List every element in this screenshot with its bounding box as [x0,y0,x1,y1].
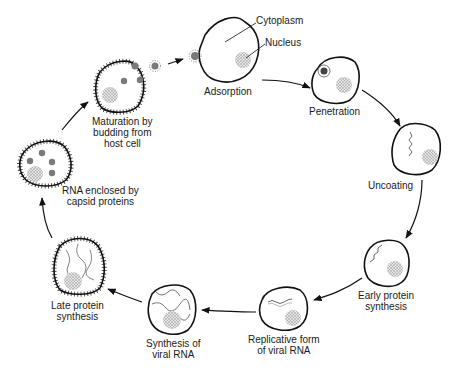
cell-late-protein [54,239,104,295]
cell-penetration [312,57,359,103]
label-replicative-form: Replicative form of viral RNA [248,334,320,356]
cell-adsorption [199,18,265,82]
cell-rna-enclosed [20,141,71,186]
arrow-adsorption-to-penetration [262,80,310,88]
cell-uncoating [392,124,440,175]
label-synthesis-rna: Synthesis of viral RNA [146,338,200,360]
label-adsorption: Adsorption [204,86,252,97]
arrow-replicative-to-synthesis [202,310,256,312]
arrow-early-to-replicative [314,278,362,300]
cell-synthesis-rna [148,285,196,334]
cell-early-protein [364,240,409,286]
arrow-release-to-adsorption [168,59,183,64]
label-late-protein: Late protein synthesis [51,300,104,322]
label-cytoplasm: Cytoplasm [256,15,303,26]
label-early-protein: Early protein synthesis [358,290,414,312]
label-nucleus: Nucleus [265,37,301,48]
cell-maturation [96,61,161,113]
label-rna-enclosed: RNA enclosed by capsid proteins [62,185,139,207]
arrow-synthesis-to-late [108,289,142,302]
arrow-enclosed-to-maturation [62,102,88,130]
label-penetration: Penetration [309,106,360,117]
label-uncoating: Uncoating [368,180,413,191]
arrow-late-to-enclosed [42,198,52,238]
arrow-penetration-to-uncoating [362,90,400,126]
label-maturation: Maturation by budding from host cell [92,116,153,149]
cell-replicative-form [259,287,307,330]
